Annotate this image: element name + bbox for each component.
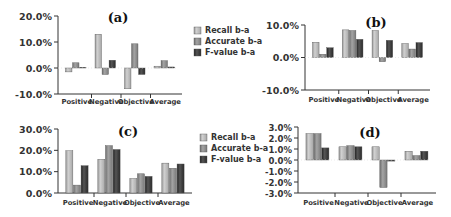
bar (306, 134, 313, 160)
bar (81, 166, 88, 193)
y-tick-label: 10.0% (266, 20, 299, 31)
bar (342, 30, 348, 58)
bar (137, 174, 144, 193)
y-tick-label: 0.0% (26, 188, 53, 199)
bar (421, 151, 428, 160)
y-tick-label: 0.0% (268, 156, 292, 166)
bar (95, 34, 101, 68)
chart-title: (a) (108, 10, 129, 25)
legend-label: Accurate b-a (205, 37, 262, 46)
y-tick-label: 0.0% (273, 52, 300, 63)
bar (73, 63, 79, 68)
bar (339, 147, 346, 160)
bar (109, 60, 115, 68)
y-tick-label: 3.0% (268, 123, 292, 133)
bar (130, 178, 137, 193)
bar (162, 163, 169, 193)
chart-title: (c) (118, 124, 138, 139)
bar (113, 149, 120, 193)
y-tick-label: 2.0% (268, 134, 292, 144)
y-tick-label: 1.0% (268, 145, 292, 155)
bar (105, 146, 112, 193)
legend-swatch (194, 27, 201, 34)
chart-c: 30.0%20.0%10.0%0.0%PositiveNegativeObjec… (19, 124, 268, 208)
bar (314, 134, 321, 160)
legend-label: Accurate b-a (211, 144, 268, 153)
legend-label: F-value b-a (211, 155, 261, 164)
x-tick-label: Negative (334, 199, 369, 207)
bar (161, 61, 167, 68)
bar (349, 31, 355, 58)
y-tick-label: 10.0% (19, 37, 52, 48)
legend-label: Recall b-a (205, 26, 249, 35)
x-tick-label: Positive (309, 96, 340, 104)
bar (356, 39, 362, 57)
bar (327, 48, 333, 58)
chart-b: 10.0%0.0%-10.0%PositiveNegativeObjective… (262, 15, 430, 104)
bar (66, 151, 73, 193)
bar (73, 185, 80, 193)
x-tick-label: Average (402, 199, 434, 207)
x-tick-label: Positive (61, 98, 92, 106)
y-tick-label: 30.0% (19, 124, 52, 135)
bar (132, 44, 138, 68)
bar (380, 160, 387, 188)
bar (98, 159, 105, 193)
bar (409, 49, 415, 57)
bar (139, 68, 145, 75)
legend-swatch (194, 49, 201, 56)
bar (66, 68, 72, 72)
y-tick-label: -1.0% (265, 167, 293, 177)
legend-label: F-value b-a (205, 48, 255, 57)
legend: Recall b-aAccurate b-aF-value b-a (200, 133, 268, 164)
y-tick-label: 0.0% (26, 63, 53, 74)
chart-title: (b) (365, 15, 386, 30)
x-tick-label: Objective (366, 199, 403, 207)
x-tick-label: Objective (124, 199, 161, 207)
legend-swatch (200, 156, 207, 163)
bar (386, 40, 392, 57)
x-tick-label: Average (397, 96, 429, 104)
charts-svg: 20.0%10.0%0.0%-10.0%PositiveNegativeObje… (0, 0, 451, 217)
legend-swatch (200, 134, 207, 141)
bar (416, 43, 422, 58)
bar (320, 54, 326, 57)
bar (102, 68, 108, 75)
x-tick-label: Average (150, 98, 182, 106)
y-tick-label: 10.0% (19, 166, 52, 177)
bar (379, 58, 385, 62)
y-tick-label: -10.0% (262, 85, 299, 96)
bar (355, 147, 362, 160)
x-tick-label: Objective (365, 96, 402, 104)
legend-swatch (200, 145, 207, 152)
x-tick-label: Positive (303, 199, 334, 207)
chart-title: (d) (359, 125, 380, 140)
y-tick-label: -3.0% (265, 189, 293, 199)
bar (372, 147, 379, 160)
legend-swatch (194, 38, 201, 45)
bar (125, 68, 131, 89)
bar (347, 146, 354, 160)
chart-a: 20.0%10.0%0.0%-10.0%PositiveNegativeObje… (15, 10, 262, 106)
bar (372, 31, 378, 58)
chart-d: 3.0%2.0%1.0%0.0%-1.0%-2.0%-3.0%PositiveN… (265, 123, 436, 208)
y-tick-label: -2.0% (265, 178, 293, 188)
legend-label: Recall b-a (211, 133, 255, 142)
bar (177, 164, 184, 193)
y-tick-label: 20.0% (19, 11, 52, 22)
figure: 20.0%10.0%0.0%-10.0%PositiveNegativeObje… (0, 0, 451, 217)
bar (169, 168, 176, 193)
x-tick-label: Average (158, 199, 190, 207)
bar (145, 176, 152, 193)
x-tick-label: Negative (93, 199, 128, 207)
legend: Recall b-aAccurate b-aF-value b-a (194, 26, 262, 57)
bar (405, 151, 412, 160)
bar (413, 156, 420, 160)
y-tick-label: 20.0% (19, 145, 52, 156)
x-tick-label: Positive (63, 199, 94, 207)
y-tick-label: -10.0% (15, 89, 52, 100)
bar (313, 42, 319, 57)
bar (322, 148, 329, 160)
bar (402, 44, 408, 58)
